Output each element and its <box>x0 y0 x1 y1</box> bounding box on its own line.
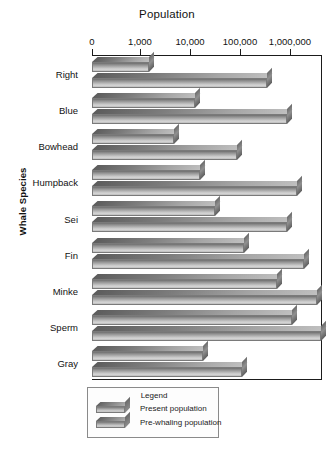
bar-present-minke <box>92 274 282 289</box>
legend: Legend Present population Pre-whaling po… <box>87 387 219 438</box>
bar-present-right <box>92 57 154 72</box>
bar-side-face <box>287 104 292 124</box>
bar-front-face <box>92 259 304 269</box>
bar-prewhaling-sei <box>92 217 292 232</box>
bar-side-face <box>244 232 249 252</box>
category-label-blue: Blue <box>59 105 78 116</box>
bar-front-face <box>92 351 203 361</box>
category-label-humpback: Humpback <box>33 177 78 188</box>
legend-icon-side <box>125 397 130 413</box>
bar-side-face <box>304 248 309 268</box>
bar-present-blue <box>92 93 200 108</box>
bar-side-face <box>317 284 322 304</box>
bar-side-face <box>292 305 297 325</box>
category-label-gray: Gray <box>57 357 78 368</box>
bar-front-face <box>92 279 277 289</box>
bar-front-face <box>92 170 200 180</box>
legend-icon-face <box>96 406 125 413</box>
bar-front-face <box>92 295 317 305</box>
bar-front-face <box>92 367 242 377</box>
x-tick-label-2: 10,000 <box>175 36 204 47</box>
bar-prewhaling-fin <box>92 254 309 269</box>
bar-side-face <box>203 341 208 361</box>
bar-prewhaling-humpback <box>92 181 302 196</box>
category-labels: RightBlueBowheadHumpbackSeiFinMinkeSperm… <box>0 55 88 380</box>
bar-side-face <box>200 160 205 180</box>
bar-prewhaling-minke <box>92 290 322 305</box>
category-label-minke: Minke <box>53 285 78 296</box>
x-tick-label-3: 100,000 <box>223 36 257 47</box>
bar-prewhaling-blue <box>92 109 292 124</box>
whale-population-chart: Population Whale Species 01,00010,000100… <box>0 0 334 453</box>
legend-title: Legend <box>88 391 220 400</box>
bar-side-face <box>174 124 179 144</box>
bar-series-group <box>92 55 322 380</box>
bar-front-face <box>92 78 267 88</box>
bar-front-face <box>92 98 195 108</box>
bar-front-face <box>92 206 215 216</box>
bar-prewhaling-right <box>92 73 272 88</box>
legend-item-present: Present population <box>140 404 207 413</box>
legend-icon-side <box>125 412 130 428</box>
bar-front-face <box>92 150 237 160</box>
category-label-fin: Fin <box>65 249 78 260</box>
bar-front-face <box>92 134 174 144</box>
bar-side-face <box>297 176 302 196</box>
bar-present-humpback <box>92 165 205 180</box>
bar-side-face <box>277 268 282 288</box>
x-axis-tick-labels: 01,00010,000100,0001,000,000 <box>0 36 334 50</box>
x-tick-label-0: 0 <box>89 36 94 47</box>
x-tick-label-1: 1,000 <box>128 36 152 47</box>
bar-side-face <box>242 357 247 377</box>
bar-present-gray <box>92 346 208 361</box>
x-tick-label-4: 1,000,000 <box>269 36 311 47</box>
bar-front-face <box>92 243 244 253</box>
category-label-bowhead: Bowhead <box>38 141 78 152</box>
bar-front-face <box>92 331 321 341</box>
bar-front-face <box>92 62 149 72</box>
category-label-right: Right <box>56 69 78 80</box>
bar-front-face <box>92 315 292 325</box>
legend-item-prewhaling: Pre-whaling population <box>140 418 221 427</box>
bar-front-face <box>92 222 287 232</box>
bar-side-face <box>267 68 272 88</box>
bar-side-face <box>287 212 292 232</box>
bar-side-face <box>237 140 242 160</box>
bar-present-sperm <box>92 310 297 325</box>
bar-side-face <box>149 52 154 72</box>
bar-prewhaling-bowhead <box>92 145 242 160</box>
chart-title: Population <box>0 8 334 20</box>
legend-icon-face <box>96 421 125 428</box>
category-label-sei: Sei <box>64 213 78 224</box>
bar-prewhaling-gray <box>92 362 247 377</box>
legend-bar-icon <box>96 402 136 434</box>
bar-present-fin <box>92 238 249 253</box>
bar-present-bowhead <box>92 129 179 144</box>
category-label-sperm: Sperm <box>50 321 78 332</box>
bar-present-sei <box>92 201 220 216</box>
bar-side-face <box>215 196 220 216</box>
bar-prewhaling-sperm <box>92 326 326 341</box>
bar-front-face <box>92 114 287 124</box>
bar-side-face <box>321 321 326 341</box>
bar-front-face <box>92 186 297 196</box>
bar-side-face <box>195 88 200 108</box>
